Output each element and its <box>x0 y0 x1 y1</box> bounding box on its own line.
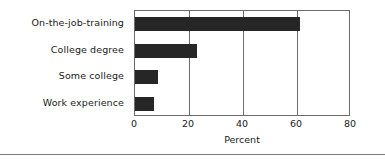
plot-area <box>134 10 350 116</box>
bar[interactable] <box>135 97 154 111</box>
category-label-row: Some college <box>0 63 130 90</box>
category-label-work-experience: Work experience <box>43 98 124 108</box>
x-tick-label: 40 <box>236 118 248 129</box>
x-tick-label: 0 <box>131 118 137 129</box>
bar-slot <box>135 38 351 65</box>
x-tick-label: 20 <box>182 118 194 129</box>
bar-slot <box>135 11 351 38</box>
bar[interactable] <box>135 44 197 58</box>
category-label-college-degree: College degree <box>51 45 124 55</box>
category-axis-labels: On-the-job-training College degree Some … <box>0 10 130 116</box>
category-label-some-college: Some college <box>59 71 124 81</box>
bottom-divider <box>0 154 385 155</box>
category-label-row: Work experience <box>0 90 130 117</box>
bar-series <box>135 11 349 115</box>
bar[interactable] <box>135 70 158 84</box>
x-tick-label: 60 <box>290 118 302 129</box>
x-axis-title: Percent <box>134 134 350 145</box>
bar-chart-figure: On-the-job-training College degree Some … <box>0 0 385 163</box>
x-axis-tick-labels: 020406080 <box>134 118 350 132</box>
category-label-row: College degree <box>0 37 130 64</box>
category-label-row: On-the-job-training <box>0 10 130 37</box>
bar-slot <box>135 64 351 91</box>
bar-slot <box>135 91 351 118</box>
category-label-on-the-job-training: On-the-job-training <box>31 18 124 28</box>
x-tick-label: 80 <box>344 118 356 129</box>
bar[interactable] <box>135 17 300 31</box>
